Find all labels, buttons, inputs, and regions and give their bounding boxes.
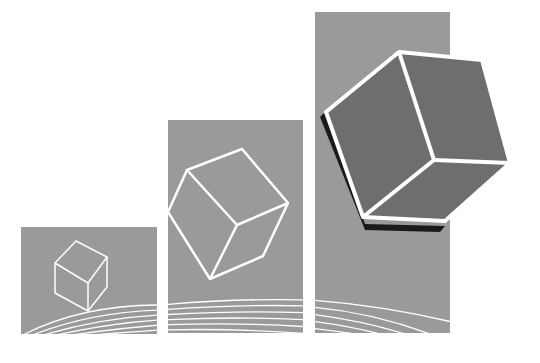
small-bar — [21, 227, 160, 336]
growth-illustration — [0, 0, 540, 363]
medium-bar — [160, 120, 310, 334]
